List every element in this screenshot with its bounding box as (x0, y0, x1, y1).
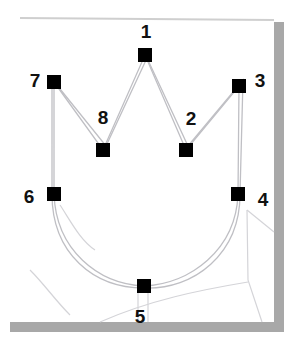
anchor-8[interactable] (96, 143, 110, 157)
anchor-label-2: 2 (186, 109, 197, 128)
anchor-points (47, 48, 246, 293)
anchor-label-1: 1 (141, 22, 152, 41)
anchor-6[interactable] (47, 187, 61, 201)
anchor-2[interactable] (179, 143, 193, 157)
anchor-label-8: 8 (98, 108, 109, 127)
anchor-4[interactable] (231, 187, 245, 201)
diagram-canvas: 1 2 3 4 5 6 7 8 (0, 0, 292, 349)
anchor-5[interactable] (137, 279, 151, 293)
anchor-3[interactable] (232, 79, 246, 93)
anchor-7[interactable] (47, 75, 61, 89)
sketch-lines (30, 205, 274, 322)
frame-right-shadow (274, 22, 284, 332)
anchor-label-7: 7 (30, 71, 41, 90)
anchor-1[interactable] (138, 48, 152, 62)
path-drawing (0, 0, 292, 349)
anchor-label-5: 5 (135, 307, 146, 326)
anchor-label-6: 6 (24, 187, 35, 206)
anchor-label-4: 4 (258, 190, 269, 209)
frame-bottom-shadow (10, 322, 284, 332)
traced-path (52, 55, 243, 288)
anchor-label-3: 3 (255, 71, 266, 90)
